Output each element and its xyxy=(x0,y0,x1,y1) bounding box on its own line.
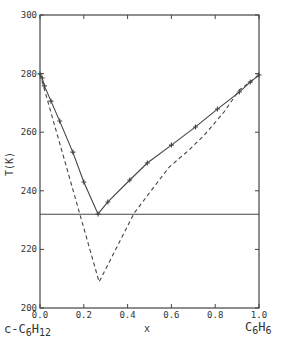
left-label-sub2: 12 xyxy=(39,327,51,338)
left-label-mid: H xyxy=(32,322,39,336)
y-tick-label: 240 xyxy=(21,186,37,196)
y-tick-label: 300 xyxy=(21,10,37,20)
x-axis-label: x xyxy=(144,323,150,334)
data-series xyxy=(38,71,262,282)
y-tick-label: 260 xyxy=(21,127,37,137)
y-tick-label: 220 xyxy=(21,244,37,254)
x-tick-label: 0.4 xyxy=(119,310,135,320)
x-tick-label: 0.6 xyxy=(163,310,179,320)
plus-marker-icon xyxy=(48,99,53,104)
right-label-mid: H xyxy=(258,320,265,334)
plus-marker-icon xyxy=(57,119,62,124)
phase-diagram-chart: 0.00.20.40.60.81.0200220240260280300 x T… xyxy=(0,0,281,349)
right-component-label: C6H6 xyxy=(245,320,272,336)
y-tick-label: 280 xyxy=(21,69,37,79)
y-axis-label: T(K) xyxy=(4,152,15,176)
plus-marker-icon xyxy=(70,150,75,155)
x-tick-label: 1.0 xyxy=(251,310,267,320)
tick-labels: 0.00.20.40.60.81.0200220240260280300 xyxy=(21,10,267,320)
x-tick-label: 0.2 xyxy=(76,310,92,320)
series-line-1 xyxy=(40,74,259,282)
right-label-sub2: 6 xyxy=(266,325,272,336)
left-component-label: c-C6H12 xyxy=(4,322,51,338)
left-label-base: c-C xyxy=(4,322,26,336)
x-tick-label: 0.8 xyxy=(207,310,223,320)
y-tick-label: 200 xyxy=(21,303,37,313)
plus-marker-icon xyxy=(81,180,86,185)
